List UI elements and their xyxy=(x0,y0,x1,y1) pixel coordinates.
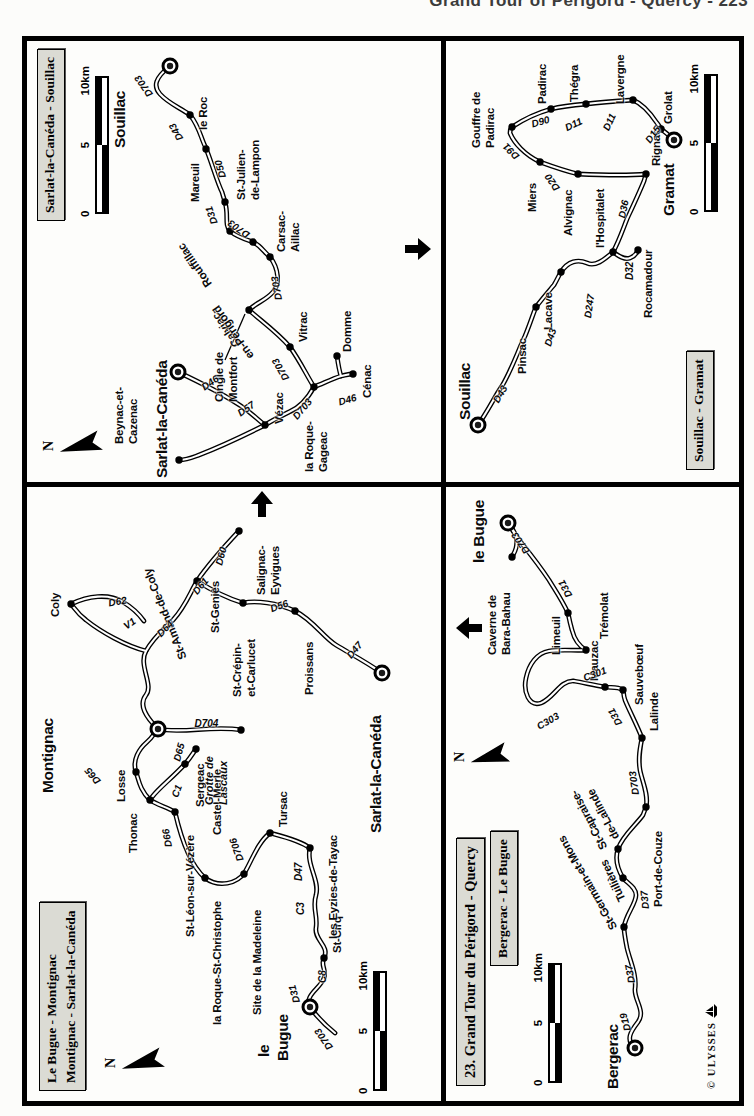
town-label-grolat: Grolat xyxy=(662,91,674,124)
town-label-l-hospitalet: l'Hospitalet xyxy=(594,189,606,248)
quadrant-divider-vertical xyxy=(27,482,739,487)
town-label-gramat: Gramat xyxy=(660,164,678,216)
town-dot-pinsac xyxy=(532,303,539,310)
town-label-st-julien: St-Julien- xyxy=(235,150,247,200)
publisher-credit: © ULYSSES xyxy=(704,1003,718,1089)
town-label-c-nac: Cénac xyxy=(361,364,373,398)
scale-bar: 0 5 10km xyxy=(688,74,718,212)
town-label-montfort: Montfort xyxy=(227,357,239,402)
scale-zero: 0 xyxy=(688,209,700,215)
town-label-carsac: Carsac- xyxy=(275,211,287,252)
scale-ten: 10km xyxy=(357,961,369,990)
town-label-cazenac: Cazenac xyxy=(127,399,139,444)
town-label-les-eyzies-de-tayac: les Eyzies-de-Tayac xyxy=(327,835,339,939)
town-dot-coly xyxy=(67,600,74,607)
town-label-losse: Losse xyxy=(115,770,127,802)
town-dot-calviac-en-p-rigord xyxy=(249,238,256,245)
map-title: Bergerac - Le Bugue xyxy=(494,839,513,958)
town-dot-st-capraise-de-lalinde xyxy=(614,845,621,852)
route-continues-arrow xyxy=(249,489,275,519)
town-label-miers: Miers xyxy=(526,183,538,212)
scale-five: 5 xyxy=(79,142,91,148)
town-dot-la-roque-st-christophe xyxy=(201,874,208,881)
town-dot-lalinde xyxy=(638,734,645,741)
town-dot-gouffre-de-padirac xyxy=(508,123,515,130)
road-label-d32: D32 xyxy=(624,262,635,280)
town-dot-port-de-couze xyxy=(642,803,649,810)
town-dot-c-nac xyxy=(349,370,356,377)
town-label-sarlat-la-can-da: Sarlat-la-Canéda xyxy=(153,360,171,478)
town-dot-sauveb-uf xyxy=(619,686,626,693)
town-dot-souillac xyxy=(471,418,485,432)
town-label-lavergne: Lavergne xyxy=(614,54,626,104)
town-label-bara-bahau: Bara-Bahau xyxy=(500,592,512,655)
town-label-salignac: Salignac- xyxy=(255,546,267,595)
map-title: Montignac - Sarlat-la-Canéda xyxy=(62,911,81,1084)
scale-bar: 0 5 10km xyxy=(357,971,387,1091)
town-dot-losse xyxy=(132,768,139,775)
map-bergerac-le-bugue: 23. Grand Tour du Périgord - Quercy Berg… xyxy=(446,487,739,1101)
north-compass: N xyxy=(41,424,109,468)
town-label-rocamadour: Rocamadour xyxy=(642,250,654,318)
town-label-bergerac: Bergerac xyxy=(604,1024,622,1089)
town-dot-salignac-eyvigues xyxy=(235,527,242,534)
town-label-le: le xyxy=(255,1045,273,1057)
tour-title: 23. Grand Tour du Périgord - Quercy xyxy=(460,846,480,1078)
town-dot-miers xyxy=(536,158,543,165)
town-label-padirac: Padirac xyxy=(484,108,496,148)
town-dot-gramat xyxy=(667,133,681,147)
scale-ten: 10km xyxy=(532,953,544,982)
town-dot-domme xyxy=(333,352,340,359)
town-dot-proissans xyxy=(291,607,298,614)
town-label-eyvigues: Eyvigues xyxy=(269,546,281,595)
town-label-st-cr-pin: St-Crépin- xyxy=(231,643,243,697)
compass-needle-icon xyxy=(119,1041,167,1085)
town-dot-rignac xyxy=(642,170,649,177)
scale-ten: 10km xyxy=(79,66,91,95)
town-dot-st-l-on-sur-v-z-re xyxy=(171,808,178,815)
town-dot-alvignac xyxy=(574,170,581,177)
town-dot-st-julien-de-lampon xyxy=(221,198,228,205)
town-label-lacave: Lacave xyxy=(542,292,554,330)
road-label-d47: D47 xyxy=(293,863,304,881)
town-label-st-l-on-sur-v-z-re: St-Léon-sur-Vézère xyxy=(184,835,196,937)
town-dot-padirac xyxy=(547,105,554,112)
town-dot-les-eyzies-de-tayac xyxy=(306,844,313,851)
town-dot-bergerac xyxy=(628,1041,642,1055)
town-dot-thonac xyxy=(146,796,153,803)
town-label-port-de-couze: Port-de-Couze xyxy=(652,831,664,907)
town-dot-l-hospitalet xyxy=(609,248,616,255)
north-label: N xyxy=(41,424,57,468)
town-dot-le-roc xyxy=(186,111,193,118)
town-dot-st-cr-pin-et-carlucet xyxy=(239,599,246,606)
credit-text: © ULYSSES xyxy=(706,1022,717,1089)
town-label-gageac: Gageac xyxy=(317,432,329,472)
town-dot-la-roque-gageac xyxy=(310,383,317,390)
map-le-bugue-montignac: Le Bugue - Montignac Montignac - Sarlat-… xyxy=(27,487,441,1101)
scale-zero: 0 xyxy=(357,1088,369,1094)
town-label-thonac: Thonac xyxy=(127,813,139,853)
town-dot-beynac-et-cazenac xyxy=(175,456,182,463)
rotated-map-stage: Le Bugue - Montignac Montignac - Sarlat-… xyxy=(27,41,739,1101)
town-label-de-lampon: de-Lampon xyxy=(249,140,261,200)
road-label-c3: C3 xyxy=(295,902,306,915)
quadrant-divider-horizontal xyxy=(441,41,446,1101)
town-label-coly: Coly xyxy=(49,593,61,617)
town-label-sauveb-uf: Sauvebœuf xyxy=(633,644,645,705)
town-label-beynac-et: Beynac-et- xyxy=(113,387,125,444)
town-dot-site-de-la-madeleine xyxy=(240,870,247,877)
town-dot-mauzac xyxy=(601,683,608,690)
north-compass: N xyxy=(452,735,516,779)
scale-five: 5 xyxy=(532,1020,544,1026)
map-title: Sarlat-la-Canéda - Souillac xyxy=(41,57,60,213)
map-title-box: Le Bugue - Montignac Montignac - Sarlat-… xyxy=(39,903,86,1092)
town-label-tursac: Tursac xyxy=(277,791,289,827)
map-plate-frame: Le Bugue - Montignac Montignac - Sarlat-… xyxy=(22,36,744,1106)
scale-bar: 0 5 10km xyxy=(532,963,562,1083)
town-label-th-gra: Thégra xyxy=(568,65,580,102)
town-label-v-zac: Vézac xyxy=(273,392,285,424)
road-label-d37: D37 xyxy=(638,890,651,909)
route-continues-arrow xyxy=(454,615,484,641)
town-dot-st-cirq xyxy=(320,954,327,961)
road-label-c8: C8 xyxy=(317,970,328,983)
